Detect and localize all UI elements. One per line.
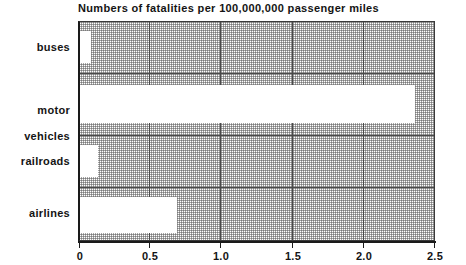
gridline-horizontal-2 — [78, 135, 435, 136]
gridline-horizontal-1 — [78, 73, 435, 74]
chart-title: Numbers of fatalities per 100,000,000 pa… — [78, 2, 379, 14]
x-tick-1.0 — [220, 241, 221, 248]
x-tick-2.5 — [434, 241, 435, 248]
bar-railroads — [80, 145, 98, 177]
x-tick-label-0.5: 0.5 — [142, 250, 158, 262]
category-label-motor-vehicles-line1: motor — [37, 104, 70, 116]
gridline-horizontal-3 — [78, 187, 435, 188]
bar-motor-vehicles — [80, 85, 415, 123]
x-tick-label-2.5: 2.5 — [427, 250, 443, 262]
bar-chart: Numbers of fatalities per 100,000,000 pa… — [0, 0, 466, 265]
x-tick-0 — [79, 241, 80, 248]
gridline-vertical-2.0 — [363, 21, 364, 241]
category-label-motor-vehicles-line2: vehicles — [24, 130, 70, 142]
category-label-airlines: airlines — [29, 207, 70, 220]
x-tick-1.5 — [292, 241, 293, 248]
bar-buses — [80, 31, 91, 63]
x-tick-label-1.5: 1.5 — [285, 250, 301, 262]
x-tick-label-1.0: 1.0 — [213, 250, 229, 262]
category-label-buses: buses — [37, 41, 70, 54]
x-tick-label-2.0: 2.0 — [356, 250, 372, 262]
gridline-vertical-1.5 — [292, 21, 293, 241]
gridline-vertical-1.0 — [220, 21, 221, 241]
x-tick-2.0 — [363, 241, 364, 248]
x-axis-line — [78, 241, 436, 243]
category-label-railroads: railroads — [21, 155, 70, 168]
x-tick-0.5 — [149, 241, 150, 248]
category-label-motor-vehicles: motor vehicles — [24, 91, 70, 143]
bar-airlines — [80, 197, 177, 233]
x-tick-label-0: 0 — [77, 250, 83, 262]
